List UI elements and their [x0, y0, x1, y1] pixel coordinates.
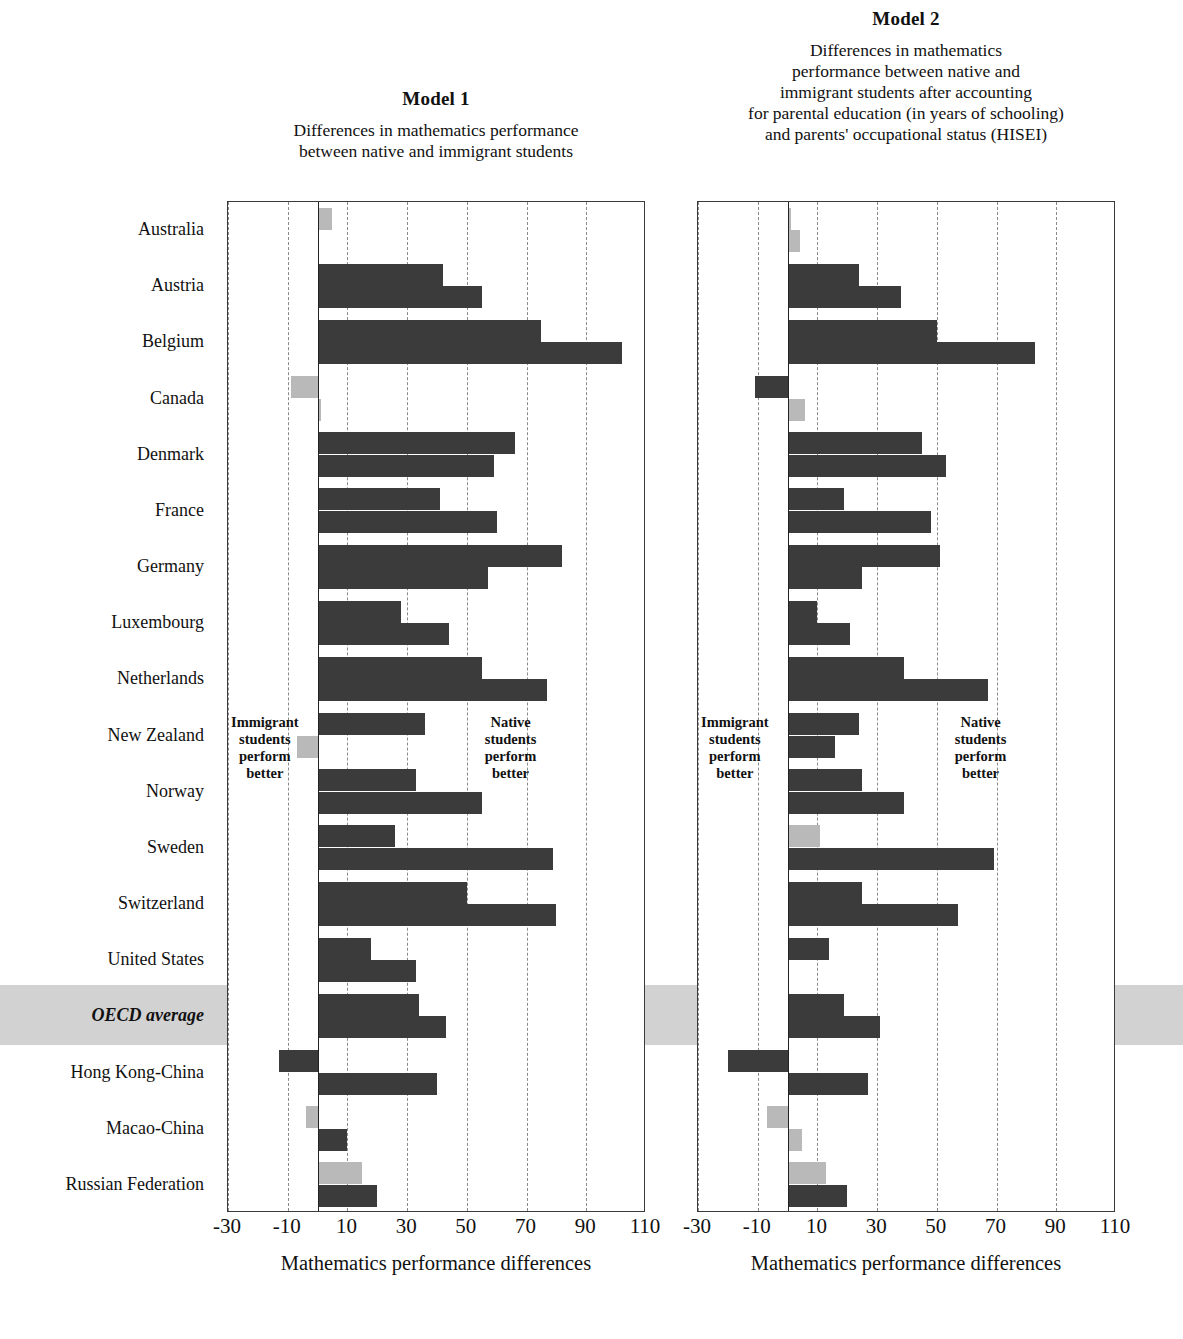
bar	[318, 825, 396, 847]
bar	[788, 1162, 827, 1184]
zero-axis-line	[788, 202, 789, 1211]
note-native-better-2: Nativestudentsperformbetter	[955, 714, 1007, 782]
category-label-belgium: Belgium	[142, 332, 204, 350]
bar	[318, 713, 425, 735]
category-label-switzerland: Switzerland	[118, 894, 204, 912]
panel-2-subtitle-line-5: and parents' occupational status (HISEI)	[690, 124, 1122, 145]
x-ticklabel-50: 50	[455, 1216, 476, 1237]
panel-1-heading: Model 1 Differences in mathematics perfo…	[227, 88, 645, 162]
gridline-90	[1056, 202, 1057, 1211]
bar	[318, 286, 482, 308]
note-native-better-2-line-4: better	[955, 765, 1007, 782]
note-native-better-2-line-2: students	[955, 731, 1007, 748]
note-immigrant-better-1-line-2: students	[231, 731, 299, 748]
bar	[318, 1073, 437, 1095]
bar	[318, 342, 623, 364]
bar	[318, 1016, 446, 1038]
bar	[788, 938, 830, 960]
x-axis-title-model-2: Mathematics performance differences	[697, 1252, 1115, 1275]
bar	[728, 1050, 788, 1072]
bar	[318, 1162, 363, 1184]
x-ticklabel-50: 50	[925, 1216, 946, 1237]
bar	[788, 882, 863, 904]
category-label-netherlands: Netherlands	[117, 669, 204, 687]
bar	[788, 342, 1036, 364]
x-ticklabel-110: 110	[1100, 1216, 1131, 1237]
category-label-luxembourg: Luxembourg	[111, 613, 204, 631]
note-immigrant-better-1-line-4: better	[231, 765, 299, 782]
bar	[767, 1106, 788, 1128]
bar	[788, 623, 851, 645]
panel-2-subtitle: Differences in mathematics performance b…	[690, 40, 1122, 145]
note-native-better-1-line-3: perform	[485, 748, 537, 765]
note-native-better-1: Nativestudentsperformbetter	[485, 714, 537, 782]
bar	[788, 286, 901, 308]
bar	[318, 657, 482, 679]
plot-area-model-1: ImmigrantstudentsperformbetterNativestud…	[228, 202, 644, 1211]
bar	[318, 601, 402, 623]
bar	[318, 567, 488, 589]
bar	[788, 736, 836, 758]
chart-panel-model-2: ImmigrantstudentsperformbetterNativestud…	[697, 201, 1115, 1212]
x-ticklabel-30: 30	[396, 1216, 417, 1237]
chart-panel-model-1: ImmigrantstudentsperformbetterNativestud…	[227, 201, 645, 1212]
category-label-macao-china: Macao-China	[106, 1119, 204, 1137]
bar	[788, 679, 988, 701]
bar	[788, 601, 818, 623]
bar	[318, 882, 467, 904]
plot-area-model-2: ImmigrantstudentsperformbetterNativestud…	[698, 202, 1114, 1211]
note-native-better-1-line-4: better	[485, 765, 537, 782]
bar	[788, 904, 958, 926]
category-label-hong-kong-china: Hong Kong-China	[71, 1063, 205, 1081]
bar	[297, 736, 318, 758]
bar	[788, 769, 863, 791]
panel-2-subtitle-line-1: Differences in mathematics	[690, 40, 1122, 61]
category-label-russian-federation: Russian Federation	[66, 1175, 204, 1193]
x-ticklabel--30: -30	[683, 1216, 711, 1237]
note-immigrant-better-1-line-1: Immigrant	[231, 714, 299, 731]
panel-1-subtitle-line-2: between native and immigrant students	[227, 141, 645, 162]
gridline--30	[228, 202, 229, 1211]
bar	[318, 432, 515, 454]
panel-2-title: Model 2	[690, 8, 1122, 30]
panel-2-subtitle-line-4: for parental education (in years of scho…	[690, 103, 1122, 124]
zero-axis-line	[318, 202, 319, 1211]
bar	[788, 994, 845, 1016]
bar	[318, 960, 417, 982]
category-label-austria: Austria	[151, 276, 204, 294]
panel-2-heading: Model 2 Differences in mathematics perfo…	[690, 8, 1122, 145]
bar	[291, 376, 318, 398]
panel-2-subtitle-line-3: immigrant students after accounting	[690, 82, 1122, 103]
bar	[318, 1129, 348, 1151]
bar	[318, 455, 494, 477]
bar	[788, 825, 821, 847]
bar	[279, 1050, 318, 1072]
bar	[318, 792, 482, 814]
panel-2-subtitle-line-2: performance between native and	[690, 61, 1122, 82]
bar	[788, 320, 937, 342]
x-ticklabel-70: 70	[985, 1216, 1006, 1237]
bar	[318, 545, 563, 567]
bar	[788, 455, 946, 477]
bar	[788, 399, 806, 421]
bar	[318, 264, 443, 286]
bar	[788, 792, 904, 814]
x-axis-ticklabels-model-1: -30-101030507090110	[227, 1216, 645, 1246]
note-immigrant-better-2-line-4: better	[701, 765, 769, 782]
bar	[788, 511, 931, 533]
bar	[788, 432, 922, 454]
bar	[318, 938, 372, 960]
panel-1-subtitle-line-1: Differences in mathematics performance	[227, 120, 645, 141]
bar	[318, 511, 497, 533]
x-ticklabel--10: -10	[743, 1216, 771, 1237]
note-immigrant-better-1-line-3: perform	[231, 748, 299, 765]
bar	[318, 208, 333, 230]
bar	[788, 848, 994, 870]
note-native-better-1-line-2: students	[485, 731, 537, 748]
bar	[788, 657, 904, 679]
bar	[788, 488, 845, 510]
category-label-norway: Norway	[146, 782, 204, 800]
x-ticklabel-90: 90	[575, 1216, 596, 1237]
x-ticklabel-70: 70	[515, 1216, 536, 1237]
bar	[788, 230, 800, 252]
